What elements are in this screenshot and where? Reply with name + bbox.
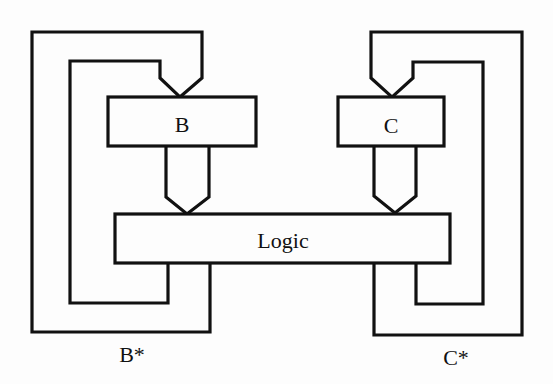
block-b-label: B	[175, 112, 190, 137]
b-to-logic-arrow	[166, 146, 209, 214]
c-to-logic-arrow	[374, 146, 416, 213]
block-c-label: C	[384, 113, 399, 138]
block-b: B	[108, 97, 256, 146]
diagram-canvas: B C Logic B* C*	[0, 0, 553, 384]
output-c-star-label: C*	[443, 345, 469, 370]
block-logic-label: Logic	[257, 228, 309, 253]
b-feedback-loop-outer	[32, 32, 210, 332]
block-logic: Logic	[115, 214, 450, 263]
c-feedback-loop-outer	[371, 32, 522, 335]
block-c: C	[338, 97, 444, 146]
output-b-star-label: B*	[119, 342, 145, 367]
